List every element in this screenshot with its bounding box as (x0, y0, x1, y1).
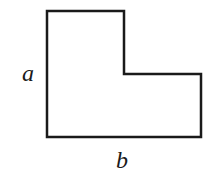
label-a: a (22, 60, 34, 86)
label-b: b (116, 147, 128, 173)
l-shape-outline (47, 11, 201, 137)
l-shape-diagram: a b (0, 0, 210, 190)
